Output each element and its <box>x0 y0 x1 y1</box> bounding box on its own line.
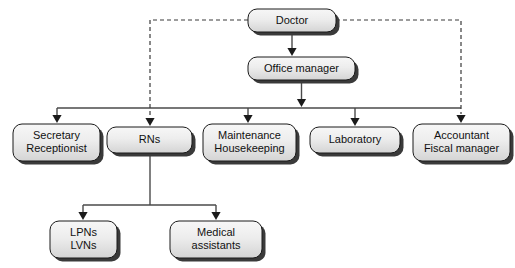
node-label-line: Housekeeping <box>214 142 284 154</box>
node-label-laboratory: Laboratory <box>329 133 382 145</box>
node-label-line: Receptionist <box>26 142 87 154</box>
arrowhead-bus-entry <box>297 99 306 107</box>
node-label-accountant: AccountantFiscal manager <box>424 129 500 154</box>
arrowhead-maintenance <box>243 115 252 123</box>
node-label-maintenance: MaintenanceHousekeeping <box>214 129 284 154</box>
org-node-secretary[interactable]: SecretaryReceptionist <box>13 124 104 165</box>
node-label-line: Maintenance <box>218 129 281 141</box>
node-label-secretary: SecretaryReceptionist <box>26 129 87 154</box>
connectors-layer <box>52 20 465 220</box>
arrowhead-rns <box>145 118 154 126</box>
org-node-lpns[interactable]: LPNsLVNs <box>50 221 121 262</box>
node-label-line: Accountant <box>434 129 489 141</box>
node-label-lpns: LPNsLVNs <box>70 226 97 251</box>
arrowhead-medical-assistants <box>211 212 220 220</box>
org-node-accountant[interactable]: AccountantFiscal manager <box>413 124 514 165</box>
connector-doctor-rns-dashed <box>150 20 248 117</box>
arrowhead-lpns <box>78 212 87 220</box>
org-chart-container: DoctorOffice managerSecretaryReceptionis… <box>0 0 515 268</box>
node-label-doctor: Doctor <box>276 13 309 25</box>
org-node-doctor[interactable]: Doctor <box>248 9 340 36</box>
node-label-line: Laboratory <box>329 133 382 145</box>
org-node-rns[interactable]: RNs <box>107 127 196 157</box>
org-node-medical-assistants[interactable]: Medicalassistants <box>170 221 266 262</box>
node-label-line: LVNs <box>70 239 97 251</box>
arrowhead-accountant <box>456 115 465 123</box>
node-label-line: RNs <box>139 133 161 145</box>
arrowhead-office-manager <box>287 48 296 56</box>
node-label-line: assistants <box>192 239 241 251</box>
org-node-maintenance[interactable]: MaintenanceHousekeeping <box>203 124 300 165</box>
node-label-rns: RNs <box>139 133 161 145</box>
node-label-line: LPNs <box>70 226 97 238</box>
nodes-layer: DoctorOffice managerSecretaryReceptionis… <box>13 9 514 262</box>
node-label-line: Secretary <box>33 129 81 141</box>
node-label-medical-assistants: Medicalassistants <box>192 226 241 251</box>
org-node-office-manager[interactable]: Office manager <box>248 57 359 84</box>
node-label-office-manager: Office manager <box>264 61 339 73</box>
node-label-line: Fiscal manager <box>424 142 500 154</box>
node-label-line: Office manager <box>264 61 339 73</box>
org-chart-canvas: DoctorOffice managerSecretaryReceptionis… <box>0 0 515 268</box>
org-node-laboratory[interactable]: Laboratory <box>310 127 404 157</box>
arrowhead-laboratory <box>350 118 359 126</box>
node-label-line: Medical <box>197 226 235 238</box>
arrowhead-secretary <box>52 115 61 123</box>
node-label-line: Doctor <box>276 13 309 25</box>
